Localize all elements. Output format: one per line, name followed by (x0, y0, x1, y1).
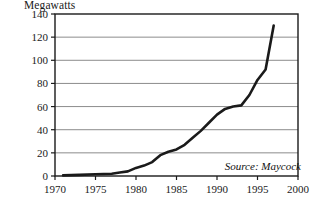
x-axis-tick-label: 1980 (125, 183, 148, 195)
chart-plot-area: 020406080100120140 197019751980198519901… (0, 0, 320, 217)
source-annotation: Source: Maycock (225, 160, 301, 172)
y-axis-tick-label: 40 (37, 124, 49, 136)
y-axis-tick-labels: 020406080100120140 (32, 8, 49, 182)
x-axis-tick-label: 1975 (85, 183, 108, 195)
y-axis-tick-label: 20 (37, 147, 49, 159)
x-axis-tick-labels: 1970197519801985199019952000 (44, 183, 310, 195)
x-axis-tick-label: 1970 (44, 183, 67, 195)
chart-container: Megawatts 020406080100120140 19701975198… (0, 0, 320, 217)
x-axis-tick-label: 1995 (247, 183, 270, 195)
x-axis-tick-label: 1985 (166, 183, 189, 195)
y-axis-tick-label: 80 (37, 77, 49, 89)
y-axis-tick-label: 100 (32, 54, 49, 66)
plot-frame (55, 14, 298, 176)
y-axis-tick-label: 60 (37, 101, 49, 113)
x-axis-tick-label: 1990 (206, 183, 229, 195)
y-axis-tick-label: 140 (32, 8, 49, 20)
gridlines (55, 37, 298, 153)
x-axis-tick-label: 2000 (287, 183, 310, 195)
y-axis-tick-label: 120 (32, 31, 49, 43)
y-axis-tick-label: 0 (43, 170, 49, 182)
